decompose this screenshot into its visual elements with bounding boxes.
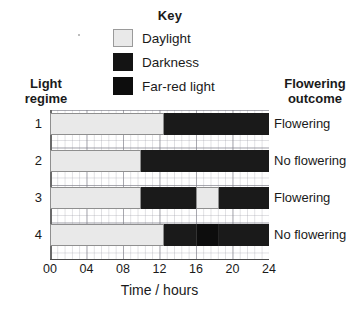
regime-bar-2 [50,150,269,172]
legend-item-daylight: Daylight [113,27,273,49]
legend-item-label: Far-red light [142,79,215,94]
darkness-segment [164,224,196,246]
legend-item-label: Daylight [142,31,191,46]
darkness-segment [219,224,269,246]
legend-item-label: Darkness [142,55,199,70]
legend-title: Key [113,8,273,23]
darkness-swatch-icon [113,53,133,71]
regime-number-4: 4 [22,227,42,242]
flowering-outcome-header-line1: Flowering [272,76,358,91]
regime-bar-3 [50,187,269,209]
regime-bar-4 [50,224,269,246]
flowering-outcome-header-line2: outcome [272,91,358,106]
outcome-label-4: No flowering [274,227,360,242]
x-tick-label-12: 12 [147,262,173,276]
far-red-light-swatch-icon [113,77,133,95]
outcome-label-1: Flowering [274,116,360,131]
legend: Key Daylight Darkness Far-red light [113,8,273,99]
far-red-light-segment [196,224,219,246]
x-tick-label-16: 16 [183,262,209,276]
x-axis-line [50,259,269,261]
daylight-segment [50,150,141,172]
daylight-segment [196,187,219,209]
regime-number-1: 1 [22,116,42,131]
regime-number-3: 3 [22,190,42,205]
plot-area [50,110,269,260]
figure-root: Key Daylight Darkness Far-red light Ligh… [0,0,361,311]
x-tick-label-20: 20 [220,262,246,276]
light-regime-header-line1: Light [6,76,86,91]
darkness-segment [164,113,269,135]
legend-item-far-red-light: Far-red light [113,75,273,97]
darkness-segment [219,187,269,209]
light-regime-header-line2: regime [6,91,86,106]
regime-number-2: 2 [22,153,42,168]
darkness-segment [141,150,269,172]
x-tick-label-04: 04 [74,262,100,276]
regime-bar-1 [50,113,269,135]
x-tick-label-08: 08 [110,262,136,276]
x-tick-label-00: 00 [37,262,63,276]
flowering-outcome-header: Flowering outcome [272,76,358,106]
legend-item-darkness: Darkness [113,51,273,73]
print-speck [78,34,80,36]
outcome-label-2: No flowering [274,153,360,168]
outcome-label-3: Flowering [274,190,360,205]
daylight-segment [50,224,164,246]
daylight-swatch-icon [113,29,133,47]
x-axis-label: Time / hours [50,282,269,298]
daylight-segment [50,187,141,209]
x-axis-ticks: 00040812162024 [50,262,269,278]
darkness-segment [141,187,196,209]
light-regime-header: Light regime [6,76,86,106]
daylight-segment [50,113,164,135]
x-tick-label-24: 24 [256,262,282,276]
